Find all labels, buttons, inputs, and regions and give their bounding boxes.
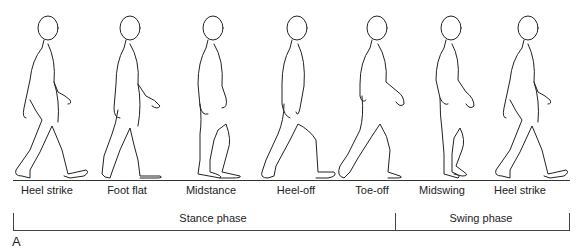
figure-panel-label: A	[12, 234, 21, 249]
figure-heel-strike	[16, 16, 88, 178]
walking-figures	[0, 0, 582, 182]
event-label-heel-off: Heel-off	[277, 184, 315, 196]
figure-foot-flat	[102, 16, 161, 178]
figure-heel-strike-2	[496, 16, 568, 178]
event-label-foot-flat: Foot flat	[107, 184, 147, 196]
event-label-heel-strike: Heel strike	[21, 184, 73, 196]
phase-bracket-line	[13, 230, 570, 231]
figure-heel-off	[262, 16, 336, 178]
event-label-toe-off: Toe-off	[355, 184, 388, 196]
event-label-heel-strike-2: Heel strike	[494, 184, 546, 196]
event-label-midswing: Midswing	[419, 184, 465, 196]
stance-start-tick	[13, 213, 14, 231]
swing-phase-label: Swing phase	[450, 212, 513, 224]
ground-line	[13, 180, 570, 181]
event-label-midstance: Midstance	[186, 184, 236, 196]
stance-phase-label: Stance phase	[179, 212, 246, 224]
figure-midswing	[436, 16, 474, 178]
phase-divider-tick	[395, 213, 396, 231]
figure-toe-off	[339, 16, 404, 178]
figure-midstance	[198, 16, 240, 178]
swing-end-tick	[569, 213, 570, 231]
